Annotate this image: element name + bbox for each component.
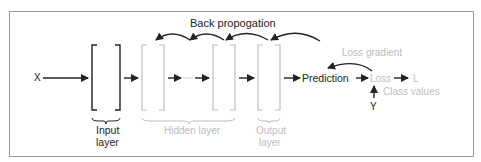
input-layer-label-line2: layer [96,136,119,148]
input-layer-label-line1: Input [96,124,119,136]
output-layer-label-line1: Output [256,125,286,136]
loss-gradient-arrow [328,64,372,71]
loss-label: Loss [370,73,391,84]
backprop-arc-2 [226,34,268,41]
input-layer-box [92,45,120,110]
output-layer-brace [258,118,280,123]
hidden-layer-1-box [142,45,164,110]
loss-symbol-L: L [413,73,419,84]
class-symbol-Y: Y [370,101,377,112]
prediction-label: Prediction [302,72,349,84]
backprop-arc-4 [156,34,190,40]
backprop-arc-3 [190,34,224,40]
backprop-arc-1 [271,33,320,41]
hidden-layer-label: Hidden layer [164,125,221,136]
diagram-canvas: X Prediction Loss L Y Class values Loss … [0,0,481,162]
hidden-layer-2-box [213,45,235,110]
loss-gradient-label: Loss gradient [342,47,402,58]
back-propagation-label: Back propogation [190,17,276,29]
output-layer-label-line2: layer [259,137,281,148]
class-values-label: Class values [383,86,440,97]
output-layer-box [258,45,280,110]
input-x-label: X [34,72,41,83]
hidden-layer-brace [142,118,235,124]
